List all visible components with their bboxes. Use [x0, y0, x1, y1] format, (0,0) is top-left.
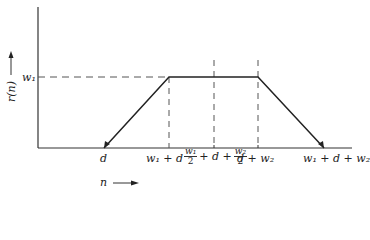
fraction-denominator: 2 [188, 157, 194, 166]
x-axis-label: n [100, 177, 107, 188]
mid-plus-d-text: + d + [199, 151, 231, 162]
x-label-arrow-icon [131, 181, 139, 186]
w1-text: w₁ [22, 71, 36, 84]
tick-label-d: d [100, 153, 107, 164]
tick-label-d-w2: d + w₂ [237, 153, 274, 164]
y-label-arrow-icon [9, 51, 14, 58]
tick-label-w1-d-w2: w₁ + d + w₂ [303, 153, 370, 164]
fraction-w1-over-2: w₁ 2 [184, 147, 197, 167]
tick-label-w1-d: w₁ + d [146, 153, 183, 164]
w1-level-label: w₁ [22, 72, 36, 83]
y-axis-label: r(n) [6, 77, 17, 107]
